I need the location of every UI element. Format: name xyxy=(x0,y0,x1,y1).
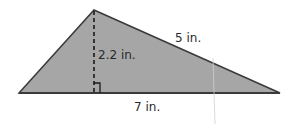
base-length-label: 7 in. xyxy=(134,101,160,113)
height-label: 2.2 in. xyxy=(98,49,136,61)
side-length-label: 5 in. xyxy=(175,32,201,44)
triangle-shape xyxy=(19,10,280,93)
